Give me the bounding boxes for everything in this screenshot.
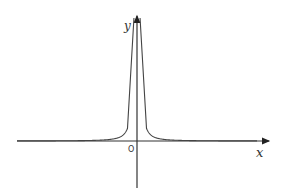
x-axis-label: x — [256, 145, 264, 160]
origin-label: O — [128, 145, 134, 154]
y-axis-label: y — [123, 19, 131, 33]
curve-right-branch — [140, 18, 257, 141]
graph: y x O — [0, 0, 282, 191]
curve-left-branch — [17, 18, 134, 141]
